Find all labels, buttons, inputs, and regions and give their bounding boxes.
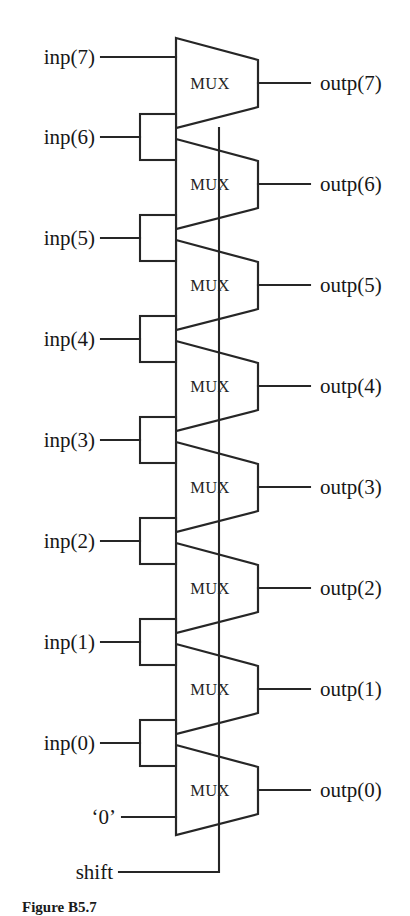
output-label-outp5: outp(5) xyxy=(320,273,382,297)
input-label-inp5: inp(5) xyxy=(44,226,95,250)
output-label-outp0: outp(0) xyxy=(320,778,382,802)
output-label-outp3: outp(3) xyxy=(320,475,382,499)
output-label-outp4: outp(4) xyxy=(320,374,382,398)
input-label-inp6: inp(6) xyxy=(44,125,95,149)
mux-label-2: MUX xyxy=(190,579,230,598)
output-wires xyxy=(258,83,310,790)
input-label-inp7: inp(7) xyxy=(44,45,95,69)
input-labels: inp(7) inp(6) inp(5) inp(4) inp(3) inp(2… xyxy=(44,45,95,755)
mux-label-7: MUX xyxy=(190,74,230,93)
output-label-outp2: outp(2) xyxy=(320,576,382,600)
figure-container: MUX MUX MUX MUX MUX MUX MUX MUX inp(7) i… xyxy=(0,0,410,916)
junction-box-5 xyxy=(140,215,176,261)
output-label-outp6: outp(6) xyxy=(320,172,382,196)
mux-label-1: MUX xyxy=(190,680,230,699)
input-label-inp1: inp(1) xyxy=(44,630,95,654)
output-label-outp7: outp(7) xyxy=(320,71,382,95)
mux-bodies xyxy=(176,38,258,835)
junction-box-2 xyxy=(140,518,176,564)
shift-label: shift xyxy=(76,860,114,884)
junction-box-6 xyxy=(140,114,176,160)
input-label-inp3: inp(3) xyxy=(44,428,95,452)
junction-box-4 xyxy=(140,316,176,362)
mux-label-5: MUX xyxy=(190,276,230,295)
barrel-shifter-diagram: MUX MUX MUX MUX MUX MUX MUX MUX inp(7) i… xyxy=(0,0,410,916)
figure-caption: Figure B5.7 xyxy=(22,899,97,915)
mux-label-6: MUX xyxy=(190,175,230,194)
mux-label-0: MUX xyxy=(190,781,230,800)
junction-box-3 xyxy=(140,417,176,463)
mux-label-3: MUX xyxy=(190,478,230,497)
junction-box-0 xyxy=(140,720,176,766)
junction-box-1 xyxy=(140,619,176,665)
input-label-inp0: inp(0) xyxy=(44,731,95,755)
input-label-inp4: inp(4) xyxy=(44,327,95,351)
output-label-outp1: outp(1) xyxy=(320,677,382,701)
output-labels: outp(7) outp(6) outp(5) outp(4) outp(3) … xyxy=(320,71,382,802)
junction-boxes xyxy=(140,114,176,766)
constant-zero-label: ‘0’ xyxy=(92,805,117,829)
input-label-inp2: inp(2) xyxy=(44,529,95,553)
mux-label-4: MUX xyxy=(190,377,230,396)
mux-labels: MUX MUX MUX MUX MUX MUX MUX MUX xyxy=(190,74,230,800)
